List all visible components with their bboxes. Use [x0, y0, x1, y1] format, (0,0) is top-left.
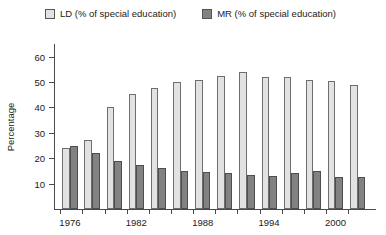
bar-mr	[269, 176, 277, 209]
y-tick	[49, 82, 54, 83]
bar-mr	[92, 153, 100, 209]
bar-mr	[136, 165, 144, 209]
x-tick-label: 2000	[325, 217, 346, 228]
bar-ld	[195, 80, 203, 209]
bar-group	[239, 72, 254, 209]
bar-group	[84, 140, 99, 209]
bar-ld	[173, 82, 181, 209]
bar-group	[129, 94, 144, 210]
bar-group	[173, 82, 188, 209]
legend-swatch-mr	[202, 9, 212, 19]
bar-mr	[225, 173, 233, 209]
bar-mr	[313, 171, 321, 209]
bar-mr	[247, 175, 255, 209]
y-tick	[49, 107, 54, 108]
bar-ld	[262, 77, 270, 209]
x-tick	[193, 210, 194, 214]
bar-group	[350, 85, 365, 209]
x-tick-label: 1994	[259, 217, 280, 228]
bar-group	[217, 76, 232, 209]
bar-group	[151, 88, 166, 209]
bar-mr	[203, 172, 211, 209]
x-tick	[237, 210, 238, 214]
bar-ld	[306, 80, 314, 209]
bar-group	[107, 107, 122, 209]
bar-mr	[114, 161, 122, 209]
y-tick-label: 50	[15, 77, 45, 88]
y-tick	[49, 158, 54, 159]
y-axis-line	[54, 44, 55, 210]
bar-ld	[62, 148, 70, 209]
bar-ld	[328, 81, 336, 209]
bar-mr	[158, 168, 166, 209]
bar-group	[195, 80, 210, 209]
x-tick	[149, 210, 150, 214]
y-tick-label: 10	[15, 178, 45, 189]
x-tick	[127, 210, 128, 214]
x-tick	[304, 210, 305, 214]
bar-ld	[350, 85, 358, 209]
x-tick	[282, 210, 283, 214]
y-tick-label: 30	[15, 127, 45, 138]
legend-swatch-ld	[45, 9, 55, 19]
bar-ld	[239, 72, 247, 209]
bar-mr	[335, 177, 343, 209]
legend-entry-mr: MR (% of special education)	[202, 8, 336, 19]
x-tick	[82, 210, 83, 214]
bar-ld	[284, 77, 292, 209]
bar-mr	[70, 146, 78, 209]
x-tick	[105, 210, 106, 214]
y-axis-title: Percentage	[5, 103, 16, 152]
chart-legend: LD (% of special education) MR (% of spe…	[45, 8, 336, 19]
bar-mr	[358, 177, 366, 209]
plot-area: Percentage 102030405060 1976198219881994…	[54, 44, 376, 210]
x-tick	[260, 210, 261, 214]
bar-mr	[291, 173, 299, 209]
bar-group	[62, 146, 77, 209]
y-tick-label: 40	[15, 102, 45, 113]
bar-ld	[151, 88, 159, 209]
bar-ld	[129, 94, 137, 210]
bar-mr	[181, 171, 189, 209]
x-tick	[171, 210, 172, 214]
x-tick	[60, 210, 61, 214]
bar-ld	[107, 107, 115, 209]
bar-group	[328, 81, 343, 209]
bar-ld	[217, 76, 225, 209]
legend-label-mr: MR (% of special education)	[217, 8, 336, 19]
bar-ld	[84, 140, 92, 209]
legend-entry-ld: LD (% of special education)	[45, 8, 176, 19]
bar-group	[284, 77, 299, 209]
x-tick-label: 1976	[59, 217, 80, 228]
y-tick-label: 60	[15, 51, 45, 62]
y-tick	[49, 184, 54, 185]
x-tick	[348, 210, 349, 214]
y-tick-label: 20	[15, 153, 45, 164]
bar-group	[306, 80, 321, 209]
x-tick-label: 1982	[126, 217, 147, 228]
y-tick	[49, 133, 54, 134]
legend-label-ld: LD (% of special education)	[60, 8, 176, 19]
x-tick	[326, 210, 327, 214]
x-tick	[215, 210, 216, 214]
bar-group	[262, 77, 277, 209]
x-tick-label: 1988	[192, 217, 213, 228]
y-tick	[49, 57, 54, 58]
bar-chart: LD (% of special education) MR (% of spe…	[0, 0, 386, 235]
